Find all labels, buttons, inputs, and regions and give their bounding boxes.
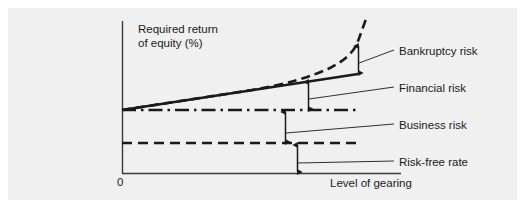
annotation-risk-free-rate: Risk-free rate <box>399 155 468 169</box>
figure-container: Required return of equity (%) Level of g… <box>0 0 525 208</box>
origin-tick-label: 0 <box>117 175 123 189</box>
leader-line-group <box>286 50 394 163</box>
business-risk-leader <box>286 124 394 133</box>
annotation-business-risk: Business risk <box>399 118 467 132</box>
risk-free-rate-leader <box>298 161 394 163</box>
y-axis-label: Required return of equity (%) <box>138 22 218 50</box>
x-axis-label: Level of gearing <box>330 176 412 190</box>
annotation-bankruptcy-risk: Bankruptcy risk <box>399 44 478 58</box>
annotation-financial-risk: Financial risk <box>399 81 466 95</box>
y-axis-label-line2: of equity (%) <box>138 37 203 49</box>
bankruptcy-risk-leader <box>359 50 394 63</box>
y-axis-label-line1: Required return <box>138 23 218 35</box>
gearing-risk-chart <box>0 0 525 208</box>
financial-risk-leader <box>309 87 394 99</box>
